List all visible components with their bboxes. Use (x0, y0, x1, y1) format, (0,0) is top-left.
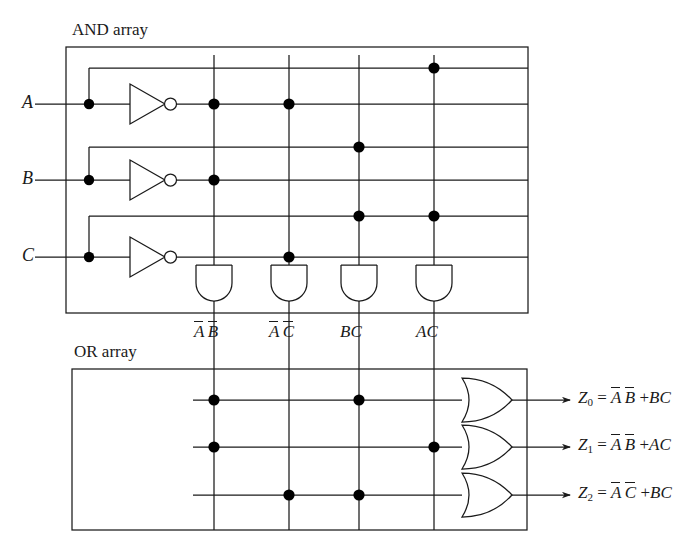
and-gate-3 (341, 265, 377, 301)
connection-dots (84, 62, 440, 500)
and-dot-c4-r5 (428, 210, 439, 221)
and-dot-c2-r2 (283, 98, 294, 109)
or-gate-z1 (462, 425, 512, 469)
inverter-a-bubble (165, 98, 177, 110)
product-term-2-part-1: A (269, 322, 279, 342)
tap-dot-a (84, 99, 94, 109)
z0-term-4: BC (649, 388, 671, 407)
z0-term-2: B (625, 388, 635, 408)
product-term-1-part-1: A (194, 322, 204, 342)
z2-term-4: BC (650, 483, 672, 502)
inverter-b-bubble (165, 174, 177, 186)
z2-term-2: C (625, 483, 636, 503)
product-term-2-part-2: C (283, 322, 294, 342)
z0-term-1: A (611, 388, 621, 408)
product-term-4-part-2: C (426, 322, 437, 341)
and-gate-1 (196, 265, 232, 301)
and-gate-2 (271, 265, 307, 301)
z0-term-3: + (640, 388, 650, 407)
z1-term-3: + (640, 435, 650, 454)
z1-term-1: A (611, 435, 621, 455)
and-dot-c1-r2 (208, 98, 219, 109)
or-dot-z2-c3 (353, 489, 364, 500)
z1-term-4: AC (649, 435, 671, 454)
product-term-label-1: A B (194, 322, 218, 342)
product-term-1-part-2: B (208, 322, 218, 342)
and-dot-c2-r6 (283, 251, 294, 262)
product-term-label-2: A C (269, 322, 294, 342)
input-label-a: A (22, 92, 33, 113)
z2-term-1: A (611, 483, 621, 503)
tap-dot-b (84, 175, 94, 185)
output-equation-z2: Z2 = A C +BC (578, 483, 672, 503)
or-array-title: OR array (74, 342, 137, 362)
product-term-label-3: BC (340, 322, 362, 342)
output-equation-z0: Z0 = A B +BC (578, 388, 671, 408)
and-dot-c3-r5 (353, 210, 364, 221)
inverter-a-body (130, 84, 165, 124)
output-equation-z1: Z1 = A B +AC (578, 435, 671, 455)
product-term-label-4: AC (416, 322, 438, 342)
or-gate-z2 (462, 473, 512, 517)
z1-term-2: B (625, 435, 635, 455)
inverter-c-bubble (165, 251, 177, 263)
or-gate-z0 (462, 378, 512, 422)
and-gate-4 (416, 265, 452, 301)
or-dot-z0-c3 (353, 394, 364, 405)
input-label-b: B (22, 168, 33, 189)
product-term-4-part-1: A (416, 322, 426, 341)
z2-term-3: + (640, 483, 650, 502)
or-dot-z2-c2 (283, 489, 294, 500)
input-label-c: C (22, 245, 34, 266)
and-dot-c3-r3 (353, 141, 364, 152)
product-term-3-part-1: B (340, 322, 350, 341)
tap-dot-c (84, 252, 94, 262)
and-dot-c1-r4 (208, 174, 219, 185)
or-dot-z1-c1 (208, 441, 219, 452)
inverter-b-body (130, 160, 165, 200)
or-array-box (72, 369, 527, 530)
or-dot-z1-c4 (428, 441, 439, 452)
and-array-title: AND array (72, 20, 148, 40)
product-term-3-part-2: C (350, 322, 361, 341)
inverter-c-body (130, 237, 165, 277)
circuit-canvas (0, 0, 698, 548)
pla-diagram: AND array OR array A B C A B A C BC AC Z… (0, 0, 698, 548)
or-dot-z0-c1 (208, 394, 219, 405)
and-dot-c4-r1 (428, 62, 439, 73)
